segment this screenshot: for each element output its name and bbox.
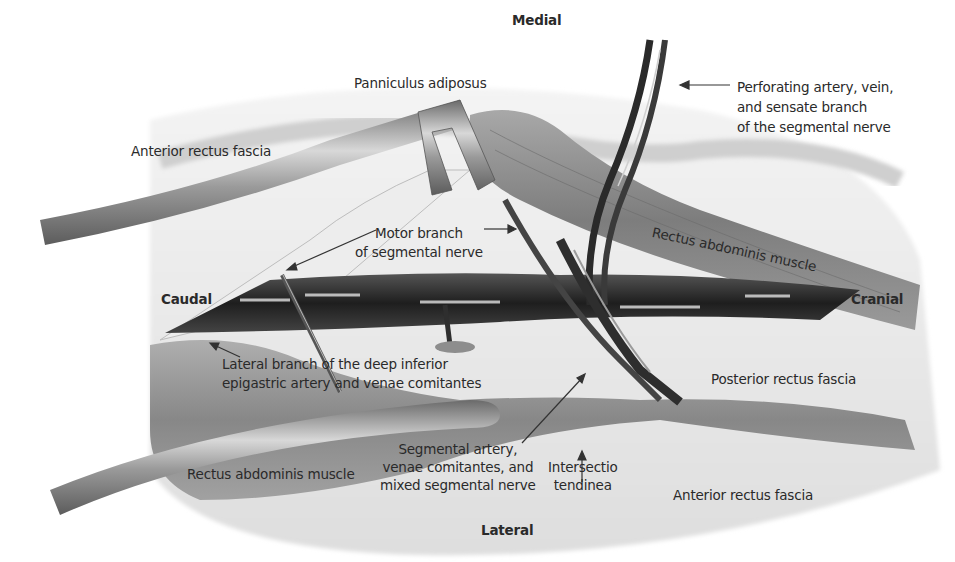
orientation-caudal: Caudal bbox=[161, 291, 212, 307]
label-lateral-branch: Lateral branch of the deep inferior epig… bbox=[222, 355, 481, 393]
label-motor-branch: Motor branch of segmental nerve bbox=[355, 224, 483, 262]
orientation-cranial: Cranial bbox=[851, 291, 903, 307]
orientation-medial: Medial bbox=[512, 12, 561, 28]
label-segmental-vessels: Segmental artery, venae comitantes, and … bbox=[380, 440, 536, 494]
orientation-lateral: Lateral bbox=[481, 522, 533, 538]
label-posterior-rectus-fascia: Posterior rectus fascia bbox=[711, 371, 856, 387]
label-panniculus-adiposus: Panniculus adiposus bbox=[354, 75, 487, 91]
label-perforating-vessels: Perforating artery, vein, and sensate br… bbox=[737, 77, 893, 137]
label-anterior-rectus-fascia-bottom: Anterior rectus fascia bbox=[673, 487, 813, 503]
label-anterior-rectus-fascia-top: Anterior rectus fascia bbox=[131, 143, 271, 159]
label-intersectio-tendinea: Intersectio tendinea bbox=[548, 458, 618, 494]
anatomy-figure: Medial Panniculus adiposus Anterior rect… bbox=[0, 0, 955, 562]
label-rectus-abdominis-lower: Rectus abdominis muscle bbox=[187, 466, 355, 482]
